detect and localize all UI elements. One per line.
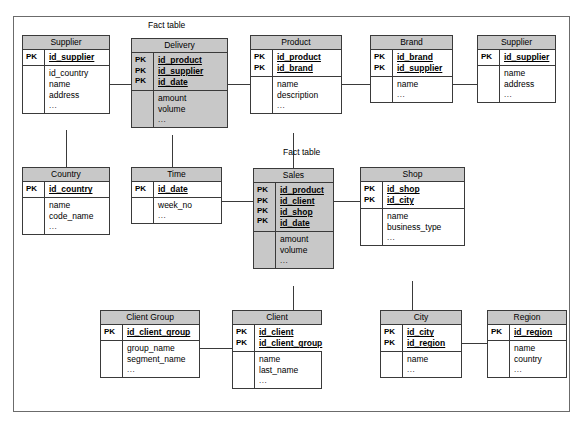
attribute-name: name: [387, 211, 462, 222]
pk-marker: PK: [481, 52, 499, 62]
attribute-ellipsis: ...: [277, 101, 339, 111]
entity-attribute-section: week_no...: [132, 198, 221, 223]
attribute-name: last_name: [259, 365, 319, 376]
pk-field-name: id_supplier: [504, 52, 553, 63]
pk-marker: PK: [364, 195, 382, 205]
pk-field-name: id_city: [387, 195, 462, 206]
attribute-column: namebusiness_type...: [383, 209, 464, 245]
pk-marker: PK: [135, 66, 153, 76]
pk-field-name: id_date: [280, 218, 331, 229]
entity-title: Client Group: [101, 311, 199, 325]
entity-title: Client: [233, 311, 321, 325]
pk-field-name: id_brand: [277, 63, 339, 74]
pk-marker: PK: [135, 76, 153, 86]
pk-field-name: id_client_group: [259, 338, 322, 349]
pk-marker-column: PKPK: [233, 325, 255, 351]
attribute-name: volume: [158, 104, 225, 115]
attribute-marker-column: [101, 341, 123, 377]
attribute-name: country: [514, 354, 564, 365]
pk-marker: PK: [374, 63, 392, 73]
pk-field-name: id_supplier: [397, 63, 450, 74]
pk-field-name: id_country: [49, 184, 107, 195]
attribute-marker-column: [361, 209, 383, 245]
pk-marker: PK: [257, 185, 275, 195]
entity-attribute-section: namecode_name...: [23, 198, 109, 234]
attribute-marker-column: [23, 66, 45, 113]
entity-brand[interactable]: BrandPKPKid_brandid_supplier name...: [370, 35, 453, 103]
entity-title: Supplier: [23, 36, 109, 50]
pk-field-name: id_supplier: [49, 52, 107, 63]
entity-key-section: PKid_supplier: [23, 50, 109, 66]
entity-key-section: PKid_region: [488, 325, 566, 341]
attribute-name: amount: [158, 93, 225, 104]
pk-marker: PK: [374, 52, 392, 62]
attribute-ellipsis: ...: [49, 222, 107, 232]
pk-marker-column: PKPKPK: [132, 53, 154, 90]
pk-field-name: id_shop: [280, 207, 331, 218]
attribute-name: code_name: [49, 211, 107, 222]
primary-key-column: id_supplier: [45, 50, 109, 65]
primary-key-column: id_brandid_supplier: [393, 50, 452, 76]
attribute-name: group_name: [127, 343, 197, 354]
attribute-column: namecode_name...: [45, 198, 109, 234]
entity-client[interactable]: ClientPKPKid_clientid_client_group namel…: [232, 310, 322, 389]
entity-region[interactable]: RegionPKid_region namecountry...: [487, 310, 567, 378]
entity-key-section: PKid_date: [132, 182, 221, 198]
pk-marker-column: PK: [23, 182, 45, 197]
entity-attribute-section: namecountry...: [488, 341, 566, 377]
entity-attribute-section: namedescription...: [251, 77, 341, 113]
primary-key-column: id_productid_clientid_shopid_date: [276, 183, 333, 231]
entity-country[interactable]: CountryPKid_country namecode_name...: [22, 167, 110, 235]
attribute-name: name: [514, 343, 564, 354]
entity-key-section: PKid_country: [23, 182, 109, 198]
attribute-marker-column: [488, 341, 510, 377]
entity-attribute-section: id_countrynameaddress...: [23, 66, 109, 113]
attribute-marker-column: [233, 352, 255, 388]
entity-key-section: PKPKid_cityid_region: [381, 325, 461, 352]
attribute-ellipsis: ...: [387, 233, 462, 243]
entity-supplier-right[interactable]: SupplierPKid_supplier nameaddress...: [477, 35, 556, 103]
attribute-marker-column: [132, 91, 154, 127]
entity-key-section: PKid_supplier: [478, 50, 555, 66]
entity-time[interactable]: TimePKid_date week_no...: [131, 167, 222, 224]
entity-key-section: PKPKid_clientid_client_group: [233, 325, 321, 352]
attribute-column: amountvolume...: [276, 232, 333, 268]
pk-marker-column: PK: [478, 50, 500, 65]
pk-marker: PK: [257, 196, 275, 206]
entity-city[interactable]: CityPKPKid_cityid_region name...: [380, 310, 462, 378]
attribute-ellipsis: ...: [280, 256, 331, 266]
attribute-marker-column: [381, 352, 403, 377]
primary-key-column: id_clientid_client_group: [255, 325, 324, 351]
entity-product[interactable]: ProductPKPKid_productid_brand namedescri…: [250, 35, 342, 114]
attribute-column: namedescription...: [273, 77, 341, 113]
attribute-ellipsis: ...: [407, 365, 459, 375]
entity-shop[interactable]: ShopPKPKid_shopid_city namebusiness_type…: [360, 167, 465, 246]
pk-marker-column: PKPK: [251, 50, 273, 76]
entity-supplier-left[interactable]: SupplierPKid_supplier id_countrynameaddr…: [22, 35, 110, 114]
attribute-marker-column: [132, 198, 154, 223]
entity-sales[interactable]: SalesPKPKPKPKid_productid_clientid_shopi…: [253, 168, 334, 269]
pk-marker: PK: [236, 338, 254, 348]
entity-delivery[interactable]: DeliveryPKPKPKid_productid_supplierid_da…: [131, 38, 228, 128]
pk-marker-column: PK: [23, 50, 45, 65]
entity-client-group[interactable]: Client GroupPKid_client_group group_name…: [100, 310, 200, 378]
pk-field-name: id_region: [407, 338, 459, 349]
attribute-column: id_countrynameaddress...: [45, 66, 109, 113]
primary-key-column: id_productid_supplierid_date: [154, 53, 227, 90]
attribute-ellipsis: ...: [127, 365, 197, 375]
attribute-ellipsis: ...: [504, 90, 553, 100]
pk-marker: PK: [135, 184, 153, 194]
pk-field-name: id_client: [259, 327, 322, 338]
entity-key-section: PKid_client_group: [101, 325, 199, 341]
attribute-name: name: [277, 79, 339, 90]
attribute-name: volume: [280, 245, 331, 256]
pk-field-name: id_product: [280, 185, 331, 196]
entity-attribute-section: namebusiness_type...: [361, 209, 464, 245]
fact-table-label-sales: Fact table: [283, 147, 320, 157]
entity-title: Country: [23, 168, 109, 182]
pk-field-name: id_supplier: [158, 66, 225, 77]
pk-field-name: id_client: [280, 196, 331, 207]
pk-field-name: id_date: [158, 77, 225, 88]
pk-marker: PK: [135, 55, 153, 65]
attribute-marker-column: [251, 77, 273, 113]
